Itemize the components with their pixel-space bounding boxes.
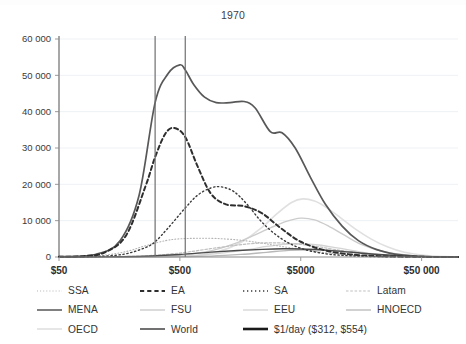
y-tick-label: 20 000 <box>22 179 51 190</box>
chart-legend: SSAEASALatamMENAFSUEEUHNOECDOECDWorld$1/… <box>36 281 460 339</box>
x-tick-label: $5000 <box>287 265 315 276</box>
legend-row: MENAFSUEEUHNOECD <box>36 300 460 319</box>
legend-label: OECD <box>68 324 98 335</box>
income-distribution-chart: 1970 010 00020 00030 00040 00050 00060 0… <box>0 0 466 344</box>
x-tick-label: $500 <box>169 265 192 276</box>
legend-line-swatch <box>36 324 63 334</box>
legend-item-latam[interactable]: Latam <box>345 285 455 296</box>
legend-label: Latam <box>377 285 406 296</box>
legend-line-swatch <box>139 305 166 315</box>
legend-item-mena[interactable]: MENA <box>36 304 139 315</box>
legend-line-swatch <box>242 305 269 315</box>
legend-item-ea[interactable]: EA <box>139 285 242 296</box>
legend-item-oecd[interactable]: OECD <box>36 324 139 335</box>
y-axis-tick-labels: 010 00020 00030 00040 00050 00060 000 <box>22 33 51 262</box>
y-tick-label: 10 000 <box>22 215 51 226</box>
legend-label: $1/day ($312, $554) <box>274 324 367 335</box>
legend-line-swatch <box>36 286 63 296</box>
legend-line-swatch <box>36 305 63 315</box>
legend-item-eeu[interactable]: EEU <box>242 304 345 315</box>
series-line-ea <box>59 128 458 257</box>
legend-line-swatch <box>345 286 372 296</box>
legend-row: OECDWorld$1/day ($312, $554) <box>36 320 460 339</box>
legend-item-world[interactable]: World <box>139 324 242 335</box>
series-line-world <box>59 65 458 257</box>
legend-item-hnoecd[interactable]: HNOECD <box>345 304 455 315</box>
y-tick-label: 60 000 <box>22 33 51 44</box>
y-tick-label: 50 000 <box>22 70 51 81</box>
y-tick-label: 0 <box>46 251 51 262</box>
legend-item-ssa[interactable]: SSA <box>36 285 139 296</box>
legend-label: EA <box>171 285 185 296</box>
plot-area: 010 00020 00030 00040 00050 00060 000 $5… <box>0 0 466 290</box>
series-line-sa <box>59 187 458 257</box>
legend-line-swatch <box>242 324 269 334</box>
legend-label: MENA <box>68 304 98 315</box>
legend-item-1-day-312-554[interactable]: $1/day ($312, $554) <box>242 324 345 335</box>
legend-label: FSU <box>171 304 192 315</box>
x-tick-label: $50 <box>51 265 68 276</box>
x-tick-label: $50 000 <box>404 265 441 276</box>
legend-label: World <box>171 324 198 335</box>
legend-line-swatch <box>139 324 166 334</box>
legend-line-swatch <box>345 305 372 315</box>
legend-label: EEU <box>274 304 295 315</box>
y-tick-label: 30 000 <box>22 142 51 153</box>
legend-label: SA <box>274 285 288 296</box>
legend-label: HNOECD <box>377 304 422 315</box>
data-series-group <box>59 65 458 257</box>
legend-item-fsu[interactable]: FSU <box>139 304 242 315</box>
legend-line-swatch <box>139 286 166 296</box>
legend-item-sa[interactable]: SA <box>242 285 345 296</box>
y-tick-label: 40 000 <box>22 106 51 117</box>
x-axis-tick-labels: $50$500$5000$50 000 <box>51 265 440 276</box>
gridlines <box>59 39 458 221</box>
legend-label: SSA <box>68 285 89 296</box>
legend-row: SSAEASALatam <box>36 281 460 300</box>
legend-line-swatch <box>242 286 269 296</box>
